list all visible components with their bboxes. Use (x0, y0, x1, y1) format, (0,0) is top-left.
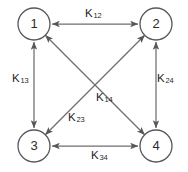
node-3-label: 3 (30, 138, 37, 153)
edge-label-k13-base: K (12, 72, 20, 84)
edge-label-k23: K23 (68, 112, 85, 124)
edge-label-k14: K14 (96, 92, 113, 104)
edge-label-k12: K12 (85, 8, 102, 20)
edge-label-k23-base: K (68, 111, 76, 123)
node-1-label: 1 (30, 16, 37, 31)
edge-label-k14-base: K (96, 91, 104, 103)
edge-label-k34-base: K (91, 149, 99, 161)
node-2-label: 2 (152, 16, 159, 31)
edge-label-k12-sub: 12 (93, 11, 102, 20)
edge-label-k24-base: K (157, 72, 165, 84)
edge-label-k34: K34 (91, 150, 108, 162)
edge-label-k13-sub: 13 (20, 76, 29, 85)
edge-label-k12-base: K (85, 7, 93, 19)
node-4-label: 4 (152, 138, 159, 153)
edge-label-k23-sub: 23 (76, 115, 85, 124)
edge-label-k34-sub: 34 (99, 153, 108, 162)
edge-label-k24-sub: 24 (165, 76, 174, 85)
rate-constant-diagram: 1 2 3 4 K12 K13 K24 K14 K23 K34 (0, 0, 188, 172)
edge-label-k13: K13 (12, 73, 29, 85)
diagram-canvas: 1 2 3 4 (0, 0, 188, 172)
edge-label-k14-sub: 14 (104, 95, 113, 104)
edge-label-k24: K24 (157, 73, 174, 85)
